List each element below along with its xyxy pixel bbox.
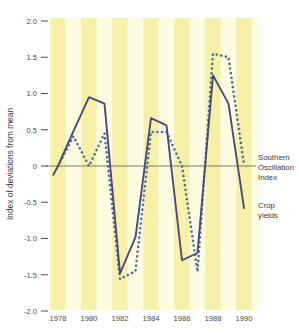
- year-band: [66, 18, 82, 310]
- y-tick-label: 1.0: [26, 89, 37, 98]
- chart-figure: 2.01.51.00.50-0.5-1.0-1.5-2.0 1978198019…: [0, 0, 299, 336]
- year-background-bands: [50, 18, 259, 310]
- x-tick-label: 1988: [205, 314, 222, 323]
- year-band: [205, 18, 221, 310]
- y-tick-label: 1.5: [26, 53, 37, 62]
- x-tick-label: 1986: [174, 314, 191, 323]
- legend-label-crop-line1: Crop: [258, 201, 276, 210]
- y-tick-label: 0: [33, 162, 37, 171]
- soi-crop-yield-line-chart: 2.01.51.00.50-0.5-1.0-1.5-2.0 1978198019…: [0, 0, 299, 336]
- y-tick-label: 2.0: [26, 17, 37, 26]
- x-tick-label: 1984: [143, 314, 160, 323]
- year-band: [221, 18, 237, 310]
- y-axis-title: Index of deviations from mean: [5, 108, 15, 221]
- legend-label-soi-line2: Oscillation: [258, 163, 294, 172]
- y-tick-label: -1.5: [24, 271, 37, 280]
- y-tick-label: -2.0: [24, 307, 37, 316]
- year-band: [174, 18, 190, 310]
- x-tick-label: 1980: [81, 314, 98, 323]
- x-tick-label: 1982: [112, 314, 129, 323]
- year-band: [159, 18, 175, 310]
- year-band: [236, 18, 252, 310]
- x-tick-label: 1990: [236, 314, 253, 323]
- legend-label-crop-line2: yields: [258, 211, 278, 220]
- legend-label-soi-line3: Index: [258, 173, 277, 182]
- y-tick-label: -1.0: [24, 234, 37, 243]
- x-tick-label: 1978: [50, 314, 67, 323]
- legend-label-soi-line1: Southern: [258, 153, 290, 162]
- y-tick-label: -0.5: [24, 198, 37, 207]
- y-tick-label: 0.5: [26, 126, 37, 135]
